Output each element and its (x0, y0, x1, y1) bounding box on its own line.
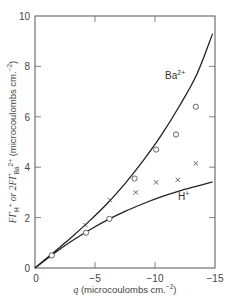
circle-marker (154, 147, 159, 152)
circle-marker (49, 253, 54, 258)
x-tick-label: −15 (207, 273, 224, 284)
x-tick-label: −5 (89, 273, 101, 284)
chart-figure: 0−5−10−150246810 Ba2+ H+ q (microcoulomb… (0, 0, 231, 301)
cross-marker (154, 180, 158, 184)
x-axis-label: q (microcoulombs cm.−2) (74, 283, 177, 295)
cross-marker (83, 223, 87, 227)
circle-marker (193, 104, 198, 109)
y-axis-label: FΓH+ or 2FΓBa2+ (microcoulombs cm.−2) (6, 61, 20, 224)
y-tick-label: 2 (24, 213, 30, 224)
plot-frame (35, 16, 215, 268)
y-tick-label: 4 (24, 162, 30, 173)
y-tick-label: 10 (19, 11, 31, 22)
circle-marker (83, 230, 88, 235)
cross-marker (134, 190, 138, 194)
ba-curve-label: Ba2+ (165, 69, 185, 81)
y-tick-label: 8 (24, 61, 30, 72)
circle-marker (173, 132, 178, 137)
cross-marker (194, 161, 198, 165)
y-tick-label: 0 (24, 263, 30, 274)
y-tick-label: 6 (24, 112, 30, 123)
axis-ticks: 0−5−10−150246810 (19, 11, 224, 284)
circle-marker (107, 216, 112, 221)
plot-border (35, 16, 215, 268)
x-tick-label: −10 (147, 273, 164, 284)
cross-marker (176, 178, 180, 182)
x-tick-label: 0 (33, 273, 39, 284)
circle-marker (132, 176, 137, 181)
h-curve-label: H+ (178, 190, 189, 202)
curves (35, 34, 213, 268)
data-points (49, 104, 198, 258)
ba-curve (35, 34, 213, 268)
